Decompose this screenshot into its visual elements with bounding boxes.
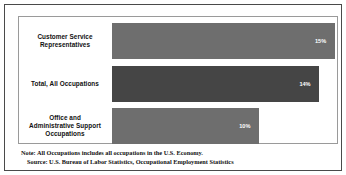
bar-category-label: Customer Service Representatives (21, 33, 109, 49)
bar-value-label: 15% (315, 38, 326, 44)
footnote-source: Source: U.S. Bureau of Labor Statistics,… (21, 157, 331, 166)
bar-rect (112, 23, 335, 59)
bar-category-label: Office and Administrative Support Occupa… (21, 114, 109, 139)
bar-track: 15% (112, 23, 335, 59)
chart-footnotes: Note: All Occupations includes all occup… (21, 148, 331, 166)
bar-category-label-line: Total, All Occupations (21, 80, 109, 88)
plot-area: Customer Service Representatives 15% Tot… (18, 16, 338, 144)
bar-category-label-line: Office and (21, 114, 109, 122)
bar-rect (112, 66, 319, 102)
bar-rect (112, 108, 259, 144)
bar-row: Total, All Occupations 14% (19, 66, 337, 102)
footnote-note: Note: All Occupations includes all occup… (21, 148, 331, 157)
bar-category-label-line: Customer Service (21, 33, 109, 41)
bar-value-label: 10% (239, 123, 250, 129)
bar-track: 10% (112, 108, 335, 144)
bar-category-label-line: Occupations (21, 130, 109, 138)
chart-figure: Customer Service Representatives 15% Tot… (0, 0, 346, 175)
bar-category-label: Total, All Occupations (21, 80, 109, 88)
bar-track: 14% (112, 66, 335, 102)
bar-row: Office and Administrative Support Occupa… (19, 108, 337, 144)
bar-category-label-line: Administrative Support (21, 122, 109, 130)
bar-row: Customer Service Representatives 15% (19, 23, 337, 59)
bar-category-label-line: Representatives (21, 41, 109, 49)
bar-value-label: 14% (299, 81, 310, 87)
figure-outer-border: Customer Service Representatives 15% Tot… (4, 4, 342, 171)
bars-container: Customer Service Representatives 15% Tot… (19, 17, 337, 143)
